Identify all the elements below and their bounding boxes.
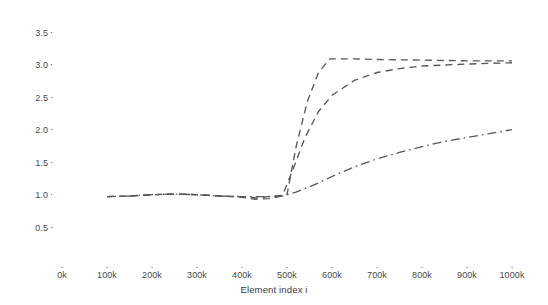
- y-tick-label: 3.0: [22, 60, 48, 70]
- y-tick-label: 2.0: [22, 125, 48, 135]
- data-series-line: [107, 130, 512, 197]
- x-tick-mark: ·: [490, 262, 534, 272]
- y-tick-label: 2.5: [22, 93, 48, 103]
- x-tick-mark: ·: [265, 262, 309, 272]
- y-tick-mark: ·: [50, 59, 53, 69]
- x-tick-mark: ·: [310, 262, 354, 272]
- data-series-line: [107, 63, 512, 198]
- x-tick-mark: ·: [355, 262, 399, 272]
- x-tick-mark: ·: [85, 262, 129, 272]
- x-tick-mark: ·: [40, 262, 84, 272]
- y-tick-mark: ·: [50, 92, 53, 102]
- x-tick-mark: ·: [175, 262, 219, 272]
- series-group: [107, 59, 512, 199]
- y-tick-mark: ·: [50, 124, 53, 134]
- y-tick-mark: ·: [50, 27, 53, 37]
- y-tick-mark: ·: [50, 222, 53, 232]
- y-tick-label: 1.5: [22, 158, 48, 168]
- x-tick-mark: ·: [130, 262, 174, 272]
- y-tick-label: 0.5: [22, 223, 48, 233]
- x-axis-title: Element index i: [0, 284, 548, 295]
- x-tick-mark: ·: [400, 262, 444, 272]
- y-tick-mark: ·: [50, 189, 53, 199]
- x-tick-mark: ·: [220, 262, 264, 272]
- x-tick-mark: ·: [445, 262, 489, 272]
- y-tick-label: 3.5: [22, 28, 48, 38]
- plot-area: [0, 0, 548, 305]
- y-tick-mark: ·: [50, 157, 53, 167]
- chart-container: 0.5·1.0·1.5·2.0·2.5·3.0·3.5· 0k·100k·200…: [0, 0, 548, 305]
- data-series-line: [107, 59, 512, 199]
- y-tick-label: 1.0: [22, 190, 48, 200]
